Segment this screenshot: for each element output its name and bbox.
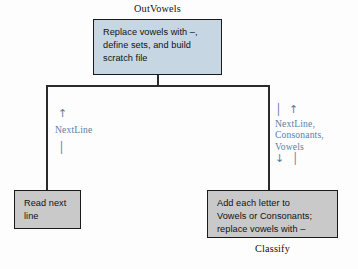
annotation-label-nextline: NextLine	[55, 124, 92, 135]
process-box-read-next-line: Read next line	[14, 190, 81, 229]
process-box-outvowels: Replace vowels with –, define sets, and …	[93, 19, 222, 75]
connector-drop-left	[46, 85, 48, 191]
connector-drop-right	[268, 85, 270, 191]
diagram-title-classify: Classify	[207, 243, 338, 254]
process-box-classify: Add each letter to Vowels or Consonants;…	[207, 190, 338, 238]
connector-horizontal-bus	[46, 85, 269, 87]
arrow-down-icon-right: ↓ │	[275, 153, 300, 164]
diagram-title-outvowels: OutVowels	[0, 3, 315, 14]
flowchart-diagram: OutVowels Replace vowels with –, define …	[0, 0, 358, 269]
arrow-up-icon-right: │ ↑	[275, 104, 300, 115]
line-segment-icon-left: │	[58, 142, 67, 153]
annotation-label-nextline-consonants-vowels: NextLine, Consonants, Vowels	[275, 118, 324, 152]
arrow-up-icon-left: ↑	[58, 108, 69, 119]
